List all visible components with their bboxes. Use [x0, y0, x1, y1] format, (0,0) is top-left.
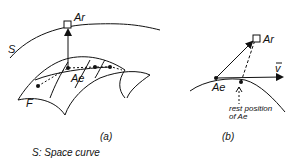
caption-b: (b)	[222, 132, 234, 142]
space-curve-s	[10, 24, 160, 58]
label-effector-a: Ae	[71, 73, 84, 84]
attractor-marker-b	[253, 35, 260, 42]
label-surface-f: F	[26, 98, 33, 109]
attractor-marker-a	[64, 21, 71, 28]
attraction-vector-b	[216, 42, 252, 78]
velocity-vector	[216, 77, 282, 78]
panel-b	[190, 40, 285, 112]
label-attractor-a: Ar	[74, 12, 85, 23]
label-velocity: v	[275, 63, 281, 74]
label-space-curve: S	[8, 44, 15, 55]
label-rest-position-2: of Ae	[229, 113, 247, 121]
label-attractor-b: Ar	[263, 34, 274, 45]
caption-a: (a)	[100, 132, 112, 142]
legend-text: S: Space curve	[32, 148, 100, 158]
label-effector-b: Ae	[212, 82, 225, 93]
diagram-canvas	[0, 0, 291, 163]
